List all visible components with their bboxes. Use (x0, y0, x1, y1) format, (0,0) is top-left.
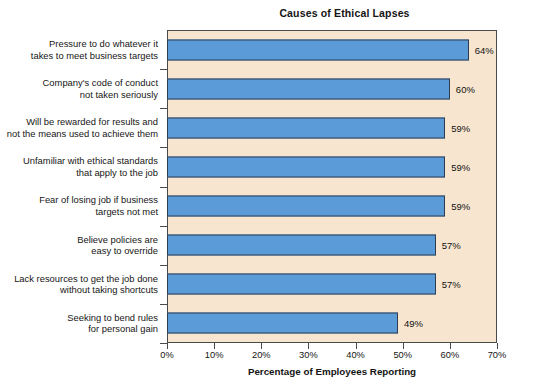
bar-value-label: 59% (445, 122, 470, 133)
bar[interactable] (167, 235, 436, 256)
chart-title: Causes of Ethical Lapses (0, 7, 543, 19)
bar-row: 60% (167, 69, 497, 108)
x-axis-tick-label: 0% (160, 350, 173, 360)
category-label: Company's code of conductnot taken serio… (0, 69, 163, 108)
bar-row: 49% (167, 304, 497, 343)
x-axis-tick-label: 10% (205, 350, 224, 360)
x-axis-ticks: 0%10%20%30%40%50%60%70% (167, 343, 497, 383)
y-axis-tick (160, 108, 168, 109)
chart-title-text: Causes of Ethical Lapses (279, 7, 409, 19)
bar-value-label: 49% (398, 318, 423, 329)
x-axis-tick-label: 60% (441, 350, 460, 360)
x-axis-tick-label: 50% (393, 350, 412, 360)
chart-container: Causes of Ethical Lapses Pressure to do … (0, 0, 543, 391)
bar[interactable] (167, 313, 398, 334)
y-axis-tick (160, 187, 168, 188)
x-axis-tick-mark (403, 343, 404, 349)
x-axis-tick-mark (497, 343, 498, 349)
y-axis-tick (160, 304, 168, 305)
y-axis-tick (160, 343, 168, 344)
x-axis-title: Percentage of Employees Reporting (167, 366, 497, 377)
x-axis-tick-mark (450, 343, 451, 349)
x-axis-tick-label: 70% (488, 350, 507, 360)
bar-value-label: 59% (445, 161, 470, 172)
bar-row: 59% (167, 187, 497, 226)
x-axis-tick-mark (214, 343, 215, 349)
bars-layer: 64%60%59%59%59%57%57%49% (167, 30, 497, 343)
bar-row: 57% (167, 226, 497, 265)
bar-value-label: 57% (436, 279, 461, 290)
bar-row: 59% (167, 147, 497, 186)
x-axis-tick-label: 40% (346, 350, 365, 360)
category-label: Pressure to do whatever ittakes to meet … (0, 30, 163, 69)
bar[interactable] (167, 156, 445, 177)
x-axis-tick-mark (261, 343, 262, 349)
bar[interactable] (167, 117, 445, 138)
category-label: Fear of losing job if businesstargets no… (0, 187, 163, 226)
bar-value-label: 57% (436, 240, 461, 251)
x-axis-tick-label: 30% (299, 350, 318, 360)
bar-row: 57% (167, 265, 497, 304)
bar-value-label: 59% (445, 201, 470, 212)
bar[interactable] (167, 274, 436, 295)
y-axis-tick (160, 69, 168, 70)
x-axis-tick-mark (308, 343, 309, 349)
category-label: Will be rewarded for results andnot the … (0, 108, 163, 147)
category-label: Unfamiliar with ethical standardsthat ap… (0, 147, 163, 186)
category-label: Believe policies areeasy to override (0, 226, 163, 265)
category-label: Lack resources to get the job donewithou… (0, 265, 163, 304)
bar[interactable] (167, 196, 445, 217)
category-label: Seeking to bend rulesfor personal gain (0, 304, 163, 343)
bar[interactable] (167, 39, 469, 60)
y-axis-tick (160, 226, 168, 227)
bar-row: 64% (167, 30, 497, 69)
y-axis-tick (160, 147, 168, 148)
bar-value-label: 64% (469, 44, 494, 55)
y-axis-tick (160, 265, 168, 266)
x-axis-tick-mark (356, 343, 357, 349)
bar-row: 59% (167, 108, 497, 147)
x-axis-tick-label: 20% (252, 350, 271, 360)
bar[interactable] (167, 78, 450, 99)
bar-value-label: 60% (450, 83, 475, 94)
y-axis-category-labels: Pressure to do whatever ittakes to meet … (0, 30, 163, 343)
